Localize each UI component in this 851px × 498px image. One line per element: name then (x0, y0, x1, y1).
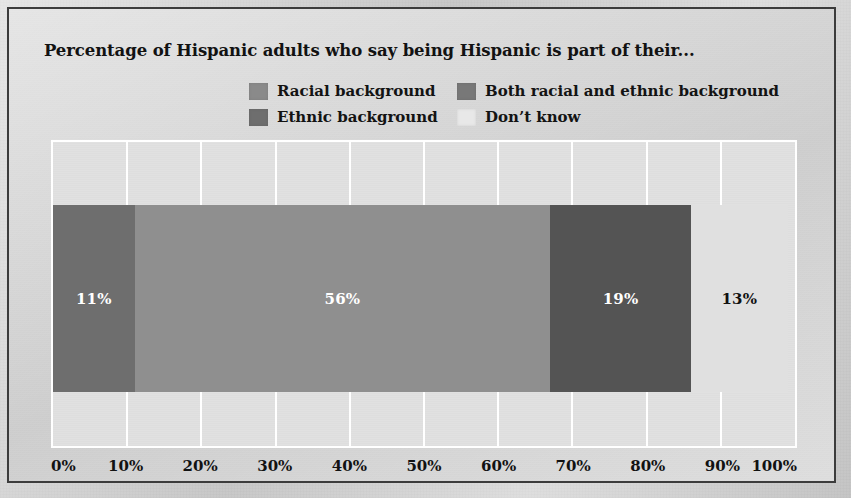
stacked-bar: 11%56%19%13% (53, 205, 795, 392)
legend-swatch-dont-know (457, 109, 476, 126)
legend-item-both-racial-and-ethnic-background[interactable]: Both racial and ethnic background (457, 83, 779, 100)
x-tick-label-100: 100% (751, 457, 797, 475)
legend-label-racial-background: Racial background (277, 84, 435, 99)
bar-segment-both-racial-and-ethnic-background[interactable]: 19% (550, 205, 691, 392)
x-tick-label-80: 80% (630, 457, 665, 475)
x-tick-label-90: 90% (705, 457, 740, 475)
legend-item-racial-background[interactable]: Racial background (249, 83, 435, 100)
bar-segment-value-label: 56% (325, 290, 361, 308)
legend-swatch-both-racial-and-ethnic-background (457, 83, 476, 100)
legend-item-ethnic-background[interactable]: Ethnic background (249, 109, 438, 126)
x-tick-label-30: 30% (257, 457, 292, 475)
legend-swatch-racial-background (249, 83, 268, 100)
bar-segment-ethnic-background[interactable]: 56% (135, 205, 551, 392)
x-tick-label-10: 10% (108, 457, 143, 475)
legend-swatch-ethnic-background (249, 109, 268, 126)
legend-item-dont-know[interactable]: Don’t know (457, 109, 581, 126)
chart-title: Percentage of Hispanic adults who say be… (44, 41, 695, 60)
x-tick-label-0: 0% (51, 457, 76, 475)
bar-segment-value-label: 11% (76, 290, 112, 308)
legend-label-both-racial-and-ethnic-background: Both racial and ethnic background (485, 84, 779, 99)
x-tick-label-60: 60% (481, 457, 516, 475)
x-tick-label-50: 50% (406, 457, 441, 475)
bar-segment-value-label: 13% (721, 290, 757, 308)
legend-label-dont-know: Don’t know (485, 110, 581, 125)
chart-frame: Percentage of Hispanic adults who say be… (7, 7, 836, 483)
plot-area: 11%56%19%13% (51, 140, 797, 448)
x-tick-label-40: 40% (332, 457, 367, 475)
bar-segment-racial-background[interactable]: 11% (53, 205, 135, 392)
chart-legend: Racial background Ethnic background Both… (249, 83, 839, 135)
chart-screenshot: Percentage of Hispanic adults who say be… (0, 0, 851, 498)
x-tick-label-20: 20% (183, 457, 218, 475)
bar-segment-don-t-know[interactable]: 13% (691, 205, 787, 392)
x-axis-tick-labels: 0%10%20%30%40%50%60%70%80%90%100% (51, 457, 797, 479)
legend-label-ethnic-background: Ethnic background (277, 110, 438, 125)
bar-segment-value-label: 19% (603, 290, 639, 308)
x-tick-label-70: 70% (556, 457, 591, 475)
